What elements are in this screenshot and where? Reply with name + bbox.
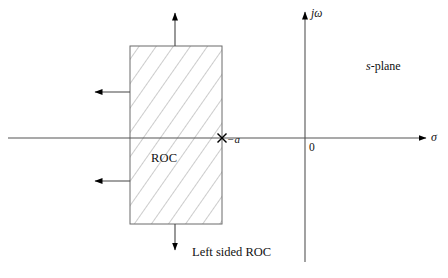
s-plane-diagram: [0, 0, 448, 278]
imaginary-axis-label: jω: [311, 8, 322, 20]
figure-root: jω σ 0 −a ROC s-plane Left sided ROC: [0, 0, 448, 278]
origin-label: 0: [309, 142, 315, 154]
roc-rectangle: [130, 46, 222, 224]
pole-label: −a: [227, 134, 240, 145]
roc-label: ROC: [151, 152, 177, 165]
roc-hatch-fill: [130, 46, 222, 224]
real-axis-label: σ: [431, 131, 437, 143]
figure-caption: Left sided ROC: [192, 246, 271, 259]
s-plane-label: s-plane: [366, 60, 401, 72]
s-plane-label-suffix: -plane: [371, 59, 401, 73]
